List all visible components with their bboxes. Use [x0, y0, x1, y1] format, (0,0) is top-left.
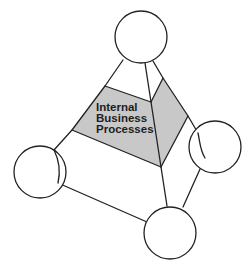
highlighted-face-label: Internal Business Processes	[96, 102, 154, 135]
node-top	[115, 11, 167, 63]
node-right	[189, 121, 241, 173]
diagram-svg	[0, 0, 248, 278]
label-line-3: Processes	[96, 124, 154, 135]
node-bottom	[144, 207, 196, 259]
diagram-canvas: Internal Business Processes	[0, 0, 248, 278]
edge-bottom-left	[58, 183, 147, 222]
